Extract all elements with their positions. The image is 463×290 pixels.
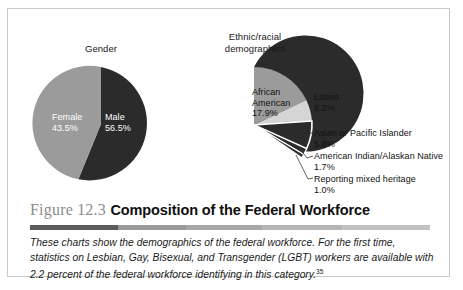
label-african-american-name-line2: American xyxy=(252,98,290,109)
label-reporting-mixed-heritage: Reporting mixed heritage 1.0% xyxy=(314,174,416,195)
figure-caption: These charts show the demographics of th… xyxy=(30,236,435,283)
label-asian-name: Asian or Pacific Islander xyxy=(314,128,412,138)
figure-number: Figure 12.3 xyxy=(30,201,106,218)
label-female-value: 43.5% xyxy=(52,123,82,134)
label-male-name: Male xyxy=(105,112,125,122)
label-asian-pacific-islander: Asian or Pacific Islander 5.8% xyxy=(314,128,412,149)
label-female: Female 43.5% xyxy=(52,112,82,133)
label-latino: Latino 8.2% xyxy=(314,92,339,113)
leader-line-mixed xyxy=(296,155,313,179)
label-white-name: White xyxy=(203,115,226,125)
figure-caption-text: These charts show the demographics of th… xyxy=(30,237,433,281)
label-mixed-name: Reporting mixed heritage xyxy=(314,174,416,184)
label-african-american: African American 17.9% xyxy=(252,87,290,119)
label-white-value: 65.4% xyxy=(203,126,229,137)
label-mixed-value: 1.0% xyxy=(314,185,416,196)
figure-heading: Figure 12.3 Composition of the Federal W… xyxy=(30,201,370,219)
label-american-indian-name: American Indian/Alaskan Native xyxy=(314,151,443,161)
label-male-value: 56.5% xyxy=(105,123,131,134)
label-asian-value: 5.8% xyxy=(314,139,412,150)
gender-chart-title: Gender xyxy=(56,43,146,55)
figure-rule-bar xyxy=(30,225,430,230)
label-african-american-value: 17.9% xyxy=(252,108,290,119)
figure-caption-footnote: 35 xyxy=(316,268,323,275)
label-female-name: Female xyxy=(52,112,82,122)
label-latino-value: 8.2% xyxy=(314,103,339,114)
label-american-indian-alaskan-native: American Indian/Alaskan Native 1.7% xyxy=(314,151,443,172)
ethnic-chart-title: Ethnic/racial demographics xyxy=(205,31,305,54)
label-male: Male 56.5% xyxy=(105,112,131,133)
label-african-american-name-line1: African xyxy=(252,87,280,97)
label-white: White 65.4% xyxy=(203,115,229,136)
figure-container: Gender Ethnic/racial demographics Female… xyxy=(7,8,450,277)
label-latino-name: Latino xyxy=(314,92,339,102)
label-american-indian-value: 1.7% xyxy=(314,162,443,173)
figure-title: Composition of the Federal Workforce xyxy=(110,202,370,218)
charts-area: Gender Ethnic/racial demographics Female… xyxy=(8,9,449,194)
